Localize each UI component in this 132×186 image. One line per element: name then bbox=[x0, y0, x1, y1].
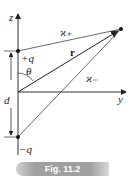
field-point bbox=[119, 27, 123, 31]
dipole-diagram: z y +q −q θ d r ϰ₊ ϰ₋ bbox=[0, 0, 132, 186]
figure-caption: Fig. 11.2 bbox=[16, 162, 109, 176]
minus-charge-point bbox=[16, 135, 20, 139]
y-axis-label: y bbox=[117, 93, 123, 105]
minus-charge-label: −q bbox=[19, 143, 32, 155]
plus-charge-point bbox=[16, 49, 20, 53]
separation-label: d bbox=[4, 94, 10, 106]
r-plus-label: ϰ₊ bbox=[60, 26, 72, 38]
r-minus-label: ϰ₋ bbox=[86, 72, 98, 84]
z-axis-label: z bbox=[8, 11, 14, 23]
r-vector-label: r bbox=[70, 46, 75, 58]
plus-charge-label: +q bbox=[21, 52, 34, 64]
theta-label: θ bbox=[26, 65, 32, 77]
